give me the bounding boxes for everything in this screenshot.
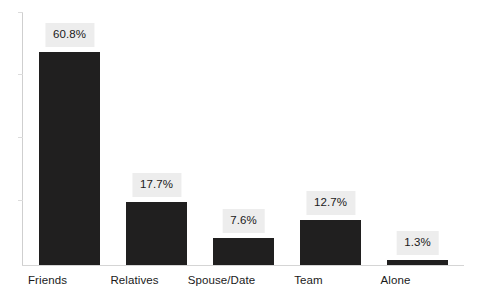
bar-value-label: 60.8% [45,23,94,48]
x-axis-label-spouse-date: Spouse/Date [183,274,260,286]
bar-value-label: 7.6% [222,209,265,234]
x-axis-line [22,265,464,266]
bar-value-label: 17.7% [132,173,181,198]
bar-chart: 60.8% 17.7% 7.6% 12.7% 1.3% Friends Rela… [0,0,482,303]
x-axis-label-alone: Alone [357,274,434,286]
bar-team [300,220,361,265]
x-axis-label-team: Team [270,274,347,286]
bar-value-label: 12.7% [306,191,355,216]
bar-spouse-date [213,238,274,265]
plot-area: 60.8% 17.7% 7.6% 12.7% 1.3% [22,12,464,265]
bar-alone [387,260,448,265]
bar-friends [39,52,100,265]
x-axis-label-relatives: Relatives [96,274,173,286]
bar-value-label: 1.3% [396,231,439,256]
bar-relatives [126,202,187,265]
x-axis-label-friends: Friends [9,274,86,286]
